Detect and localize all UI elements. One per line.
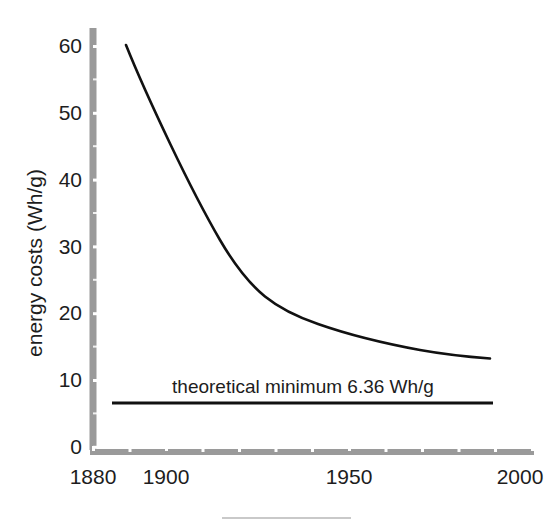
y-tick-40 [93,179,98,182]
x-minor-tick-1970 [421,448,424,452]
y-tick-label-0: 0 [70,435,82,458]
x-minor-tick-1890 [129,448,132,452]
x-minor-tick-1960 [385,448,388,452]
x-minor-tick-1990 [494,448,497,452]
y-minor-tick-55 [93,78,97,80]
x-tick-label-1880: 1880 [70,465,117,488]
y-minor-tick-25 [93,279,97,281]
y-axis-title: energy costs (Wh/g) [23,169,46,357]
y-tick-60 [93,45,98,48]
x-minor-tick-1920 [238,448,241,452]
y-tick-label-20: 20 [59,301,82,324]
y-tick-label-30: 30 [59,235,82,258]
x-minor-tick-1940 [311,448,314,452]
x-tick-1880 [92,446,95,451]
x-tick-1950 [348,446,351,451]
y-minor-tick-15 [93,346,97,348]
x-tick-label-1900: 1900 [143,465,190,488]
y-tick-label-10: 10 [59,368,82,391]
y-tick-label-40: 40 [59,168,82,191]
y-tick-label-50: 50 [59,101,82,124]
y-tick-10 [93,379,98,382]
x-tick-label-2000: 2000 [497,465,544,488]
y-tick-30 [93,245,98,248]
y-minor-tick-5 [93,412,97,414]
line-chart-svg: 60 50 40 30 20 10 0 1880 1900 1950 2000 … [0,0,554,529]
y-tick-20 [93,312,98,315]
theoretical-minimum-label: theoretical minimum 6.36 Wh/g [172,376,434,397]
x-tick-1900 [165,446,168,451]
x-minor-tick-1910 [202,448,205,452]
y-minor-tick-35 [93,212,97,214]
y-tick-50 [93,112,98,115]
chart-figure: 60 50 40 30 20 10 0 1880 1900 1950 2000 … [0,0,554,529]
y-minor-tick-45 [93,145,97,147]
x-tick-2000 [531,446,534,451]
x-minor-tick-1930 [275,448,278,452]
x-minor-tick-1980 [458,448,461,452]
y-tick-label-60: 60 [59,34,82,57]
x-tick-label-1950: 1950 [326,465,373,488]
